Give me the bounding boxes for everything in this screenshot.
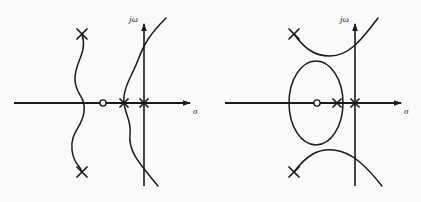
left-sigma-axis-label: σ bbox=[193, 106, 198, 116]
left-pole-lower bbox=[77, 167, 87, 177]
root-locus-figure: σ jω bbox=[0, 0, 421, 202]
root-locus-canvas: σ jω bbox=[0, 0, 421, 202]
right-pole-upper bbox=[289, 29, 299, 39]
left-jomega-axis-label: jω bbox=[128, 14, 138, 24]
right-branch-lower-hyperbola bbox=[294, 150, 382, 186]
right-plot-group: σ jω bbox=[225, 14, 409, 186]
right-sigma-axis-label: σ bbox=[404, 106, 409, 116]
left-pole-upper bbox=[77, 29, 87, 39]
left-zero-marker bbox=[100, 100, 106, 106]
left-plot-group: σ jω bbox=[14, 14, 198, 186]
right-jomega-axis-label: jω bbox=[339, 14, 349, 24]
right-pole-lower bbox=[289, 167, 299, 177]
right-zero-marker bbox=[314, 100, 320, 106]
right-branch-upper-hyperbola bbox=[294, 18, 378, 56]
